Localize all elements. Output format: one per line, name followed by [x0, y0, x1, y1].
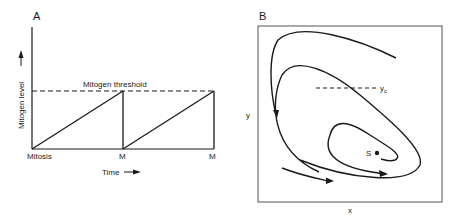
trajectory-middle	[275, 66, 420, 178]
tick-label-m-2: M	[209, 152, 216, 161]
arrowhead	[326, 178, 334, 185]
y-axis-label-b: y	[246, 111, 250, 120]
right-arrow-icon	[124, 170, 141, 175]
figure: A Mitogen threshold Mitosis M M Time Mit…	[0, 0, 458, 222]
up-arrow-icon	[19, 50, 24, 66]
panel-a-label: A	[33, 10, 41, 22]
phase-plane-box	[258, 26, 442, 202]
steady-state-label: S	[366, 149, 371, 158]
tick-label-m-1: M	[119, 152, 126, 161]
x-axis-label: Time	[102, 168, 120, 177]
series-segment	[123, 91, 214, 149]
mitogen-series	[32, 91, 214, 149]
trajectory-lower	[282, 168, 328, 181]
tick-label-mitosis: Mitosis	[27, 152, 52, 161]
arrowhead	[379, 170, 388, 177]
threshold-label: Mitogen threshold	[83, 80, 147, 89]
panel-a: A Mitogen threshold Mitosis M M Time Mit…	[17, 10, 216, 177]
series-segment	[32, 91, 123, 149]
trajectory-inner	[328, 123, 398, 174]
critical-y-label: yc	[380, 84, 387, 94]
panel-b-label: B	[259, 10, 266, 22]
steady-state-point	[375, 151, 379, 155]
panel-b: B y x yc S	[246, 10, 442, 215]
trajectory-outer	[271, 32, 396, 115]
y-axis-label: Mitogen level	[17, 82, 26, 129]
x-axis-label-b: x	[348, 206, 352, 215]
